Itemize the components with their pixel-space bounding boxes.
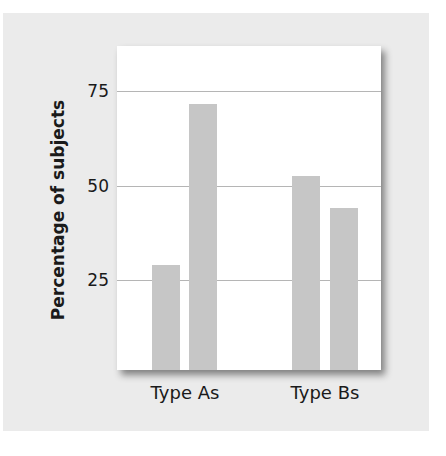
bar-type-bs-series-1 — [292, 176, 320, 370]
plot-area — [117, 46, 381, 370]
y-axis-label: Percentage of subjects — [48, 100, 68, 320]
gridline-50 — [117, 186, 381, 187]
x-category-type-bs: Type Bs — [291, 382, 360, 403]
bar-type-as-series-2 — [189, 104, 217, 370]
gridline-75 — [117, 91, 381, 92]
y-tick-50: 50 — [87, 177, 109, 194]
bar-type-as-series-1 — [152, 265, 180, 370]
bar-type-bs-series-2 — [330, 208, 358, 370]
y-tick-25: 25 — [87, 272, 109, 289]
y-tick-75: 75 — [87, 83, 109, 100]
x-category-type-as: Type As — [151, 382, 220, 403]
